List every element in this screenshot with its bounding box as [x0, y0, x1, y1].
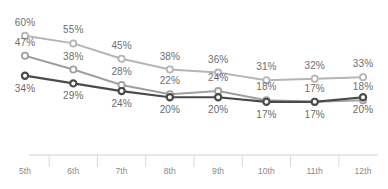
x-axis-label-9th: 9th [212, 166, 224, 176]
data-point-marker [70, 80, 76, 86]
data-point-marker [118, 56, 124, 62]
data-point-marker [263, 99, 269, 105]
data-point-marker [215, 94, 221, 100]
data-point-label: 17% [305, 109, 325, 120]
data-point-marker [118, 88, 124, 94]
data-point-marker [312, 99, 318, 105]
data-point-label: 20% [208, 104, 228, 115]
data-point-label: 29% [63, 90, 83, 101]
x-axis-label-12th: 12th [355, 166, 372, 176]
x-axis-label-5th: 5th [19, 166, 31, 176]
data-point-label: 55% [63, 24, 83, 35]
data-point-label: 20% [353, 104, 373, 115]
data-point-marker [70, 66, 76, 72]
data-point-label: 38% [63, 51, 83, 62]
line-chart: 60%55%45%38%36%31%32%33%47%38%28%22%24%1… [0, 0, 388, 189]
data-point-marker [312, 76, 318, 82]
x-axis-label-11th: 11th [307, 166, 323, 176]
x-axis-label-8th: 8th [164, 166, 176, 176]
data-point-marker [22, 53, 28, 59]
data-point-marker [22, 73, 28, 79]
data-point-label: 18% [256, 81, 276, 92]
data-point-label: 20% [160, 104, 180, 115]
data-point-label: 28% [111, 66, 131, 77]
data-point-label: 17% [305, 83, 325, 94]
data-point-label: 47% [15, 37, 35, 48]
data-point-label: 36% [208, 54, 228, 65]
data-point-label: 22% [160, 75, 180, 86]
data-point-label: 18% [353, 81, 373, 92]
data-point-label: 45% [111, 40, 131, 51]
data-point-marker [167, 66, 173, 72]
data-point-marker [360, 74, 366, 80]
chart-plot-area [0, 0, 388, 189]
x-axis-label-10th: 10th [258, 166, 275, 176]
data-point-label: 24% [208, 72, 228, 83]
data-point-marker [167, 94, 173, 100]
x-axis-label-6th: 6th [67, 166, 79, 176]
data-point-label: 32% [305, 60, 325, 71]
data-point-label: 38% [160, 51, 180, 62]
x-axis-label-7th: 7th [116, 166, 128, 176]
data-point-label: 24% [111, 98, 131, 109]
data-point-label: 33% [353, 58, 373, 69]
data-point-label: 17% [256, 109, 276, 120]
data-point-marker [70, 40, 76, 46]
data-point-label: 60% [15, 17, 35, 28]
data-point-label: 34% [15, 83, 35, 94]
data-point-marker [360, 94, 366, 100]
data-point-label: 31% [256, 61, 276, 72]
